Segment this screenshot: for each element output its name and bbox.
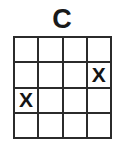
grid-cell-r4c3[interactable] — [64, 114, 86, 137]
chord-name-title: C — [0, 5, 124, 33]
grid-cell-r2c1[interactable] — [15, 63, 37, 86]
grid-cell-r1c3[interactable] — [64, 38, 86, 61]
chord-diagram-figure: C X X — [0, 0, 124, 147]
grid-cell-r1c1[interactable] — [15, 38, 37, 61]
grid-cell-r3c1[interactable]: X — [15, 89, 37, 112]
grid-cell-r3c4[interactable] — [88, 89, 110, 112]
grid-cell-r2c2[interactable] — [39, 63, 61, 86]
grid-cell-r4c1[interactable] — [15, 114, 37, 137]
grid-cell-r1c4[interactable] — [88, 38, 110, 61]
cell-mark-x: X — [19, 89, 33, 110]
grid-cell-r3c2[interactable] — [39, 89, 61, 112]
grid-cell-r2c4[interactable]: X — [88, 63, 110, 86]
grid-cell-r3c3[interactable] — [64, 89, 86, 112]
grid-cell-r4c2[interactable] — [39, 114, 61, 137]
grid-cell-r2c3[interactable] — [64, 63, 86, 86]
fretboard-grid: X X — [13, 36, 112, 139]
grid-cell-r1c2[interactable] — [39, 38, 61, 61]
grid-cell-r4c4[interactable] — [88, 114, 110, 137]
cell-mark-x: X — [92, 64, 106, 85]
